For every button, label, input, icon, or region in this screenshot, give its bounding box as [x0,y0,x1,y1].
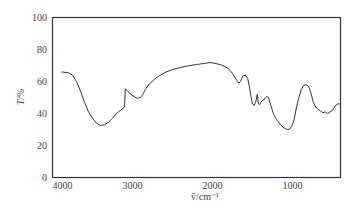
y-tick-label: 40 [37,108,47,119]
x-tick-label: 2000 [203,180,223,191]
y-axis-ticks: 020406080100 [32,12,47,183]
x-tick-label: 4000 [53,180,73,191]
y-axis-title: T/% [15,89,26,106]
x-tick-label: 1000 [283,180,303,191]
y-tick-label: 0 [42,172,47,183]
y-tick-label: 100 [32,12,47,23]
ir-spectrum-chart: 020406080100 4000300020001000 ṽ/cm⁻¹ T/% [0,0,357,218]
y-tick-label: 20 [37,140,47,151]
y-tick-label: 60 [37,76,47,87]
spectrum-line [61,63,340,130]
x-tick-label: 3000 [123,180,143,191]
x-axis-ticks: 4000300020001000 [53,180,303,191]
x-axis-title: ṽ/cm⁻¹ [191,191,219,202]
y-tick-label: 80 [37,44,47,55]
plot-frame [53,18,341,178]
